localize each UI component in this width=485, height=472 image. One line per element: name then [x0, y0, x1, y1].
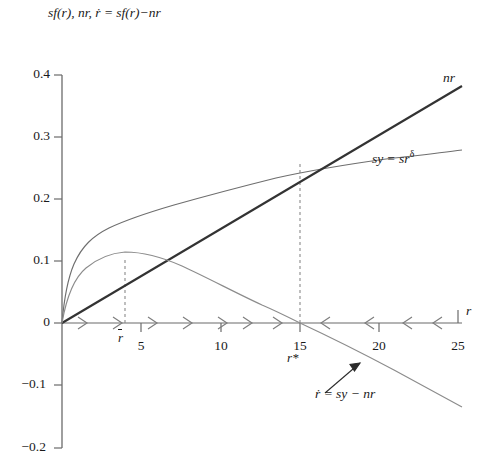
annotation-r-bar: r: [118, 330, 123, 346]
curve-nr: [62, 86, 462, 323]
chart-figure: sf(r), nr, ṙ = sf(r)−nr: [0, 0, 485, 472]
curve-sy: [62, 150, 462, 323]
annotation-r-bar-text: r: [118, 330, 123, 346]
ytick-label-4: 0: [10, 314, 50, 330]
ytick-label-5: −0.1: [6, 376, 46, 392]
xtick-label-0: 5: [124, 338, 158, 354]
y-tick-marks: [54, 75, 62, 448]
plot-canvas: [0, 0, 485, 472]
annotation-r-star: r*: [287, 350, 299, 366]
ytick-label-0: 0.4: [10, 66, 50, 82]
curve-label-sy-text: sy = sr: [372, 151, 410, 166]
ytick-label-6: −0.2: [6, 439, 46, 455]
curve-label-sy: sy = srδ: [372, 148, 414, 167]
ytick-label-3: 0.1: [10, 252, 50, 268]
curve-label-rdot: ṙ = sy − nr: [315, 386, 375, 402]
xtick-label-3: 20: [362, 338, 396, 354]
ytick-label-2: 0.2: [10, 190, 50, 206]
xtick-label-1: 10: [204, 338, 238, 354]
curve-label-nr: nr: [443, 70, 455, 86]
x-axis-label-r: r: [466, 303, 471, 319]
xtick-label-4: 25: [441, 338, 475, 354]
ytick-label-1: 0.3: [10, 128, 50, 144]
curve-label-sy-exponent: δ: [410, 148, 415, 159]
